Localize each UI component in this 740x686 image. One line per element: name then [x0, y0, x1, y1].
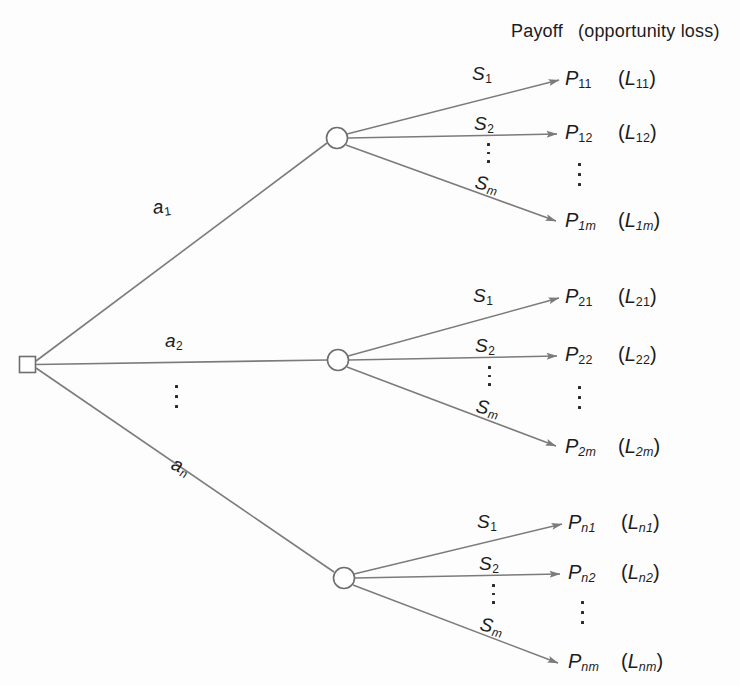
state-g1-s1-sub: 1 [485, 72, 492, 86]
state-label-g2-s2: S2 [475, 336, 495, 357]
decision-tree-diagram: Payoff (opportunity loss) a1 a2 an S1 S2… [0, 0, 740, 686]
action-a2-sub: 2 [176, 339, 183, 353]
loss-l1m-base: L [625, 209, 636, 231]
loss-l11-open: ( [618, 67, 625, 89]
loss-lnm-sub: nm [639, 660, 657, 674]
action-a1-base: a [151, 196, 164, 218]
loss-l11-base: L [625, 67, 636, 89]
loss-lnm-open: ( [621, 650, 628, 672]
payoff-pn1-sub: n1 [581, 521, 595, 535]
states-g3-vertical-ellipsis-icon [492, 584, 496, 610]
payoff-label-p11: P11 [565, 68, 592, 91]
payoff-p2m-sub: 2m [578, 445, 596, 459]
loss-ln2-sub: n2 [639, 571, 653, 585]
loss-l2m-open: ( [618, 435, 625, 457]
state-edge-1-3 [346, 145, 556, 221]
loss-l12-base: L [625, 121, 636, 143]
state-g3-s2-sub: 2 [492, 562, 499, 576]
state-g3-s1-base: S [477, 511, 490, 532]
state-edge-3-2 [355, 574, 560, 578]
state-label-g1-s2: S2 [474, 114, 494, 135]
action-edge-a2 [36, 360, 328, 365]
action-edge-a1 [36, 143, 327, 361]
state-g2-s2-base: S [475, 335, 488, 356]
state-edge-2-2 [349, 356, 557, 360]
loss-label-lnm: (Lnm) [621, 651, 663, 674]
loss-l1m-close: ) [654, 209, 661, 231]
payoff-header-title: Payoff [511, 22, 563, 40]
state-g2-s1-base: S [473, 285, 486, 306]
payoffs-g2-vertical-ellipsis-icon [578, 386, 582, 409]
state-edge-3-3 [353, 585, 558, 663]
chance-node-1[interactable] [327, 128, 348, 149]
loss-ln1-close: ) [653, 511, 660, 533]
loss-l11-sub: 11 [636, 77, 649, 91]
loss-ln2-base: L [628, 561, 639, 583]
loss-label-ln1: (Ln1) [621, 512, 660, 535]
loss-l22-open: ( [618, 343, 625, 365]
payoff-pnm-base: P [568, 650, 581, 672]
loss-l12-sub: 12 [636, 131, 650, 145]
actions-vertical-ellipsis-icon [175, 385, 179, 408]
state-label-g3-s1: S1 [477, 512, 497, 533]
decision-node-square[interactable] [20, 357, 36, 373]
payoff-label-pnm: Pnm [568, 651, 599, 674]
loss-label-ln2: (Ln2) [621, 562, 660, 585]
loss-l22-close: ) [650, 343, 657, 365]
loss-l21-sub: 21 [636, 295, 650, 309]
payoff-p22-base: P [565, 343, 578, 365]
loss-lnm-close: ) [657, 650, 664, 672]
action-a2-base: a [165, 330, 176, 351]
payoff-p22-sub: 22 [578, 353, 592, 367]
payoff-p1m-sub: 1m [578, 219, 596, 233]
payoff-p2m-base: P [565, 435, 578, 457]
payoff-pn1-base: P [568, 511, 581, 533]
state-label-g1-s1: S1 [472, 64, 492, 85]
opportunity-loss-header-title: (opportunity loss) [578, 22, 720, 40]
state-label-g3-sm: Sm [478, 614, 505, 639]
payoff-p21-sub: 21 [578, 295, 592, 309]
loss-l12-close: ) [650, 121, 657, 143]
chance-node-3[interactable] [334, 568, 355, 589]
payoff-pn2-base: P [568, 561, 581, 583]
state-g2-s2-sub: 2 [488, 344, 495, 358]
state-g2-s1-sub: 1 [486, 294, 493, 308]
loss-l2m-sub: 2m [636, 445, 654, 459]
loss-label-l22: (L22) [618, 344, 657, 367]
state-edge-2-1 [348, 298, 559, 356]
payoff-pn2-sub: n2 [581, 571, 595, 585]
state-label-g1-sm: Sm [473, 172, 500, 197]
loss-ln1-base: L [628, 511, 639, 533]
payoff-label-p21: P21 [565, 286, 593, 309]
payoff-label-pn2: Pn2 [568, 562, 596, 585]
loss-l21-close: ) [650, 285, 657, 307]
loss-ln1-open: ( [621, 511, 628, 533]
payoff-label-pn1: Pn1 [568, 512, 596, 535]
state-label-g2-sm: Sm [474, 396, 501, 421]
loss-l21-base: L [625, 285, 636, 307]
loss-l2m-close: ) [654, 435, 661, 457]
action-label-a2: a2 [165, 331, 183, 352]
state-g3-s2-base: S [479, 553, 492, 574]
payoffs-g3-vertical-ellipsis-icon [581, 601, 585, 624]
state-edge-3-1 [354, 524, 562, 574]
state-label-g2-s1: S1 [473, 286, 493, 307]
payoffs-g1-vertical-ellipsis-icon [578, 163, 582, 186]
chance-node-2[interactable] [328, 350, 349, 371]
states-g1-vertical-ellipsis-icon [487, 143, 491, 169]
loss-ln2-open: ( [621, 561, 628, 583]
state-g1-s1-base: S [472, 63, 485, 84]
loss-ln2-close: ) [653, 561, 660, 583]
loss-lnm-base: L [628, 650, 639, 672]
payoff-p1m-base: P [565, 209, 578, 231]
loss-label-l21: (L21) [618, 286, 657, 309]
states-g2-vertical-ellipsis-icon [488, 366, 492, 392]
payoff-label-p22: P22 [565, 344, 593, 367]
state-g1-s2-base: S [474, 113, 487, 134]
payoff-label-p2m: P2m [565, 436, 596, 459]
loss-l12-open: ( [618, 121, 625, 143]
state-g3-s1-sub: 1 [490, 520, 497, 534]
state-g1-s2-sub: 2 [487, 122, 494, 136]
loss-l21-open: ( [618, 285, 625, 307]
payoff-label-p1m: P1m [565, 210, 596, 233]
